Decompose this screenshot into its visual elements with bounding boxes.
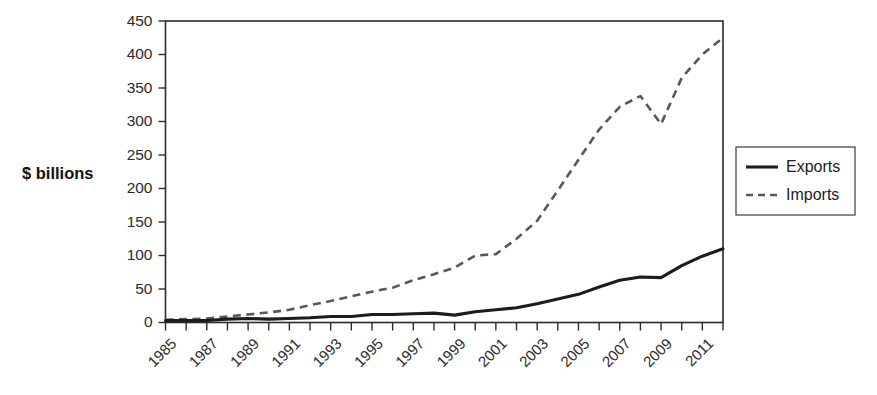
x-tick-label: 2009 [640,335,676,371]
series-line-exports [166,249,724,321]
x-tick-label: 1995 [350,335,386,371]
y-tick-label: 0 [144,313,153,330]
x-tick-label: 1989 [227,335,263,371]
x-tick-label: 1997 [392,335,428,371]
x-axis-ticks: 1985198719891991199319951997199920012003… [144,323,723,371]
legend-label-imports: Imports [786,186,839,203]
x-tick-label: 2011 [682,335,717,370]
x-tick-label: 1991 [268,335,304,371]
y-tick-label: 400 [127,45,153,62]
chart-figure: 050100150200250300350400450 198519871989… [0,0,877,395]
x-tick-label: 1993 [309,335,345,371]
y-tick-label: 200 [127,179,153,196]
y-tick-label: 300 [127,112,153,129]
x-tick-label: 2001 [474,335,510,371]
y-tick-label: 100 [127,246,153,263]
y-axis-title: $ billions [22,164,94,182]
x-tick-label: 2007 [598,335,634,371]
line-chart: 050100150200250300350400450 198519871989… [0,0,877,395]
x-tick-label: 2003 [516,335,552,371]
y-tick-label: 150 [127,213,153,230]
y-tick-label: 350 [127,79,153,96]
y-axis-ticks: 050100150200250300350400450 [127,12,166,331]
x-tick-label: 1999 [433,335,469,371]
legend-label-exports: Exports [786,158,840,175]
x-tick-label: 2005 [557,335,593,371]
x-tick-label: 1985 [144,335,180,371]
y-tick-label: 450 [127,12,153,29]
chart-legend: ExportsImports [736,147,855,215]
y-tick-label: 50 [135,280,153,297]
x-tick-label: 1987 [185,335,221,371]
legend-box [736,147,855,215]
y-tick-label: 250 [127,146,153,163]
